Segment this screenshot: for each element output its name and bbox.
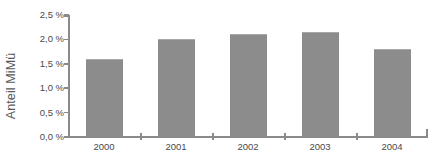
x-axis-tick-label: 2003 [284, 142, 356, 152]
x-axis-tick-mark [356, 133, 358, 140]
x-axis-tick-mark [212, 133, 214, 140]
y-axis-tick-label: 2,0 % [20, 34, 64, 44]
bar [302, 32, 339, 137]
y-axis-tick-label: 1,0 % [20, 83, 64, 93]
bar [374, 49, 411, 137]
y-axis-tick-mark [64, 39, 69, 41]
y-axis-tick-mark [64, 136, 69, 138]
bar-chart: Anteil MiMü 0,0 %0,5 %1,0 %1,5 %2,0 %2,5… [0, 0, 435, 160]
x-axis-tick-label: 2004 [356, 142, 428, 152]
y-axis-tick-label: 0,0 % [20, 132, 64, 142]
x-axis-tick-mark [140, 133, 142, 140]
y-axis-tick-label: 0,5 % [20, 108, 64, 118]
y-axis-tick-label: 1,5 % [20, 59, 64, 69]
y-axis-tick-mark [64, 87, 69, 89]
plot-area: 20002001200220032004 [68, 15, 428, 137]
y-axis-tick-mark [64, 112, 69, 114]
x-axis-end-cap-tick [426, 129, 428, 137]
y-axis-line [68, 15, 70, 137]
x-axis-tick-mark [284, 133, 286, 140]
x-axis-tick-label: 2002 [212, 142, 284, 152]
y-axis-tick-mark [64, 63, 69, 65]
bar [158, 39, 195, 137]
x-axis-tick-label: 2001 [140, 142, 212, 152]
x-axis-tick-label: 2000 [68, 142, 140, 152]
y-axis-tick-labels: 0,0 %0,5 %1,0 %1,5 %2,0 %2,5 % [18, 0, 64, 160]
y-axis-tick-mark [64, 14, 69, 16]
y-axis-tick-label: 2,5 % [20, 10, 64, 20]
bar [86, 59, 123, 137]
bar [230, 34, 267, 137]
